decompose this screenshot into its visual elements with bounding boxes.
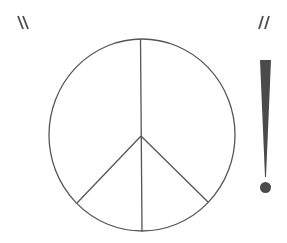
right-mark-1 xyxy=(259,16,263,29)
left-mark-2 xyxy=(23,16,28,29)
right-mark-2 xyxy=(265,16,269,29)
exclamation-bar xyxy=(260,60,271,177)
peace-left-diagonal xyxy=(77,136,141,203)
left-emphasis-marks xyxy=(18,16,28,29)
illustration xyxy=(0,0,287,243)
peace-right-diagonal xyxy=(141,136,208,202)
peace-symbol-icon xyxy=(49,39,235,231)
peace-vertical-line xyxy=(141,39,143,231)
exclamation-icon xyxy=(260,60,271,193)
left-mark-1 xyxy=(18,16,23,29)
exclamation-dot xyxy=(260,182,271,193)
right-emphasis-marks xyxy=(259,16,269,29)
